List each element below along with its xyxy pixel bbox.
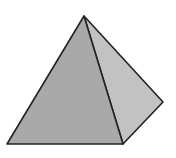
pyramid-diagram: [0, 0, 176, 158]
pyramid-figure: [0, 0, 176, 158]
